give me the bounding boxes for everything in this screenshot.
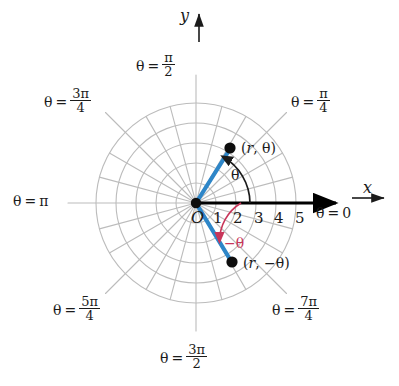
angle-label-theta-pi-over-2: θ = π 2: [136, 52, 175, 80]
fraction-denominator: 4: [317, 101, 329, 114]
paren-close: ): [284, 255, 289, 271]
angle-label-theta-7pi-over-4: θ = 7π 4: [272, 296, 319, 324]
origin-label: O: [191, 208, 204, 227]
angle-label-theta-pi-over-4: θ = π 4: [291, 88, 330, 116]
radial-tick-4: 4: [274, 209, 284, 227]
fraction-numerator: 3π: [186, 343, 207, 357]
theta-symbol: θ: [262, 140, 270, 156]
theta-symbol: θ: [53, 303, 61, 317]
equals-sign: =: [327, 206, 339, 220]
fraction: 3π 4: [70, 87, 91, 115]
theta-symbol: θ: [160, 351, 168, 365]
theta-symbol: θ: [13, 194, 21, 208]
fraction-numerator: π: [162, 51, 175, 65]
fraction-numerator: 3π: [70, 87, 91, 101]
angle-value: π: [39, 194, 48, 208]
point-label-r-theta: (r, θ): [241, 140, 276, 156]
angle-label-theta-3pi-over-4: θ = 3π 4: [44, 88, 91, 116]
polar-plot-svg: [0, 0, 399, 386]
fraction: π 4: [317, 87, 330, 115]
radial-tick-3: 3: [254, 209, 264, 227]
theta-symbol: θ: [272, 303, 280, 317]
point-label-r-neg-theta: (r, −θ): [243, 255, 290, 271]
angle-label-theta-5pi-over-4: θ = 5π 4: [53, 296, 100, 324]
fraction-denominator: 4: [74, 101, 86, 114]
fraction-denominator: 4: [83, 309, 95, 322]
theta-symbol: θ: [316, 206, 324, 220]
x-axis-label: x: [363, 178, 372, 197]
angle-label-theta-zero: θ = 0: [316, 206, 351, 220]
equals-sign: =: [171, 351, 183, 365]
fraction-denominator: 2: [190, 357, 202, 370]
fraction-numerator: 5π: [79, 295, 100, 309]
y-axis-label: y: [180, 6, 189, 25]
angle-value: 0: [342, 206, 351, 220]
theta-symbol: θ: [136, 59, 144, 73]
point-dot-r-neg-theta[interactable]: [226, 256, 237, 267]
fraction: π 2: [162, 51, 175, 79]
origin-dot: [191, 198, 201, 208]
fraction: 5π 4: [79, 295, 100, 323]
equals-sign: =: [302, 95, 314, 109]
radial-tick-1: 1: [213, 209, 223, 227]
arc-label-theta-negative: −θ: [224, 235, 244, 251]
label-separator: ,: [253, 140, 262, 156]
theta-symbol: θ: [291, 95, 299, 109]
fraction-denominator: 2: [162, 65, 174, 78]
angle-label-theta-pi: θ = π: [13, 194, 48, 208]
theta-symbol: θ: [276, 255, 284, 271]
fraction: 7π 4: [298, 295, 319, 323]
arc-label-theta-positive: θ: [231, 167, 239, 183]
radial-tick-2: 2: [233, 209, 243, 227]
theta-symbol: θ: [44, 95, 52, 109]
fraction-numerator: 7π: [298, 295, 319, 309]
label-separator: , −: [255, 255, 276, 271]
equals-sign: =: [55, 95, 67, 109]
point-dot-r-theta[interactable]: [224, 142, 235, 153]
equals-sign: =: [283, 303, 295, 317]
equals-sign: =: [64, 303, 76, 317]
fraction-numerator: π: [317, 87, 330, 101]
angle-label-theta-3pi-over-2: θ = 3π 2: [160, 344, 207, 372]
radial-tick-5: 5: [295, 209, 305, 227]
polar-coordinate-figure: y x O 1 2 3 4 5 θ = 0 θ = π 4 θ = π 2: [0, 0, 399, 386]
fraction: 3π 2: [186, 343, 207, 371]
fraction-denominator: 4: [302, 309, 314, 322]
equals-sign: =: [147, 59, 159, 73]
equals-sign: =: [24, 194, 36, 208]
paren-close: ): [271, 140, 276, 156]
